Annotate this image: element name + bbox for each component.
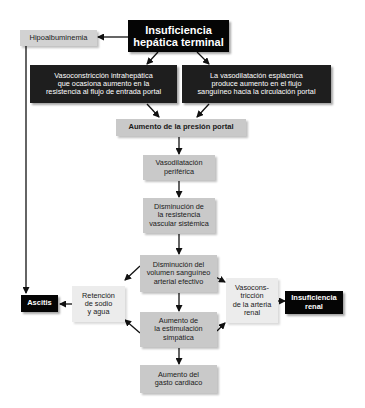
ascitis-box: Ascitis [21, 295, 58, 312]
disminucion-volumen-label: Disminución del volumen sanguíneo arteri… [147, 261, 211, 286]
aumento-presion-portal-label: Aumento de la presión portal [128, 123, 233, 132]
vasoconstriccion-renal-box: Vasocons- tricción de la arteria renal [226, 278, 278, 323]
vasodilatacion-periferica-box: Vasodilatación periférica [143, 155, 215, 180]
insuficiencia-hepatica-label: Insuficiencia hepática terminal [133, 24, 223, 49]
vasoconstriccion-renal-label: Vasocons- tricción de la arteria renal [233, 284, 272, 317]
hipoalbuminemia-label: Hipoalbuminemia [30, 34, 88, 42]
aumento-estimulacion-box: Aumento de la estimulación simpática [140, 312, 217, 347]
retencion-sodio-box: Retención de sodio y agua [72, 286, 125, 322]
insuficiencia-hepatica-box: Insuficiencia hepática terminal [128, 20, 229, 52]
aumento-gasto-box: Aumento del gasto cardiaco [140, 365, 217, 393]
aumento-estimulacion-label: Aumento de la estimulación simpática [154, 317, 202, 342]
vasodilatacion-esplacnica-label: La vasodilatación esplácnica produce aum… [197, 72, 315, 97]
aumento-gasto-label: Aumento del gasto cardiaco [155, 371, 202, 387]
hipoalbuminemia-box: Hipoalbuminemia [20, 30, 97, 46]
disminucion-resistencia-label: Disminución de la resistencia vascular s… [149, 203, 209, 228]
vasoconstriccion-intrahepatica-box: Vasoconstricción intrahepática que ocasi… [30, 65, 177, 103]
vasodilatacion-periferica-label: Vasodilatación periférica [156, 159, 203, 175]
insuficiencia-renal-label: Insuficiencia renal [291, 294, 336, 311]
retencion-sodio-label: Retención de sodio y agua [82, 292, 115, 317]
vasodilatacion-esplacnica-box: La vasodilatación esplácnica produce aum… [182, 65, 331, 103]
aumento-presion-portal-box: Aumento de la presión portal [116, 119, 246, 136]
vasoconstriccion-intrahepatica-label: Vasoconstricción intrahepática que ocasi… [46, 72, 161, 97]
insuficiencia-renal-box: Insuficiencia renal [285, 291, 343, 314]
ascitis-label: Ascitis [27, 299, 52, 307]
disminucion-volumen-box: Disminución del volumen sanguíneo arteri… [140, 255, 217, 292]
disminucion-resistencia-box: Disminución de la resistencia vascular s… [143, 198, 215, 233]
